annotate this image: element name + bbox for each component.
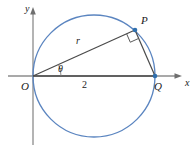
- segment-pq: [135, 30, 155, 76]
- x-axis-label: x: [185, 78, 189, 88]
- diagram-svg: [0, 0, 194, 148]
- figure-canvas: y x O P Q r 2 θ: [0, 0, 194, 148]
- segment-label-diameter: 2: [82, 80, 87, 90]
- segment-op: [33, 30, 135, 76]
- x-axis-arrowhead: [175, 73, 183, 79]
- point-label-o: O: [21, 81, 29, 92]
- y-axis-arrowhead: [30, 7, 36, 15]
- segment-label-r: r: [76, 36, 80, 46]
- point-q-dot: [153, 74, 158, 79]
- point-label-p: P: [141, 15, 148, 26]
- y-axis-label: y: [25, 4, 29, 14]
- point-label-q: Q: [154, 81, 162, 92]
- point-p-dot: [133, 28, 138, 33]
- angle-label-theta: θ: [58, 64, 63, 74]
